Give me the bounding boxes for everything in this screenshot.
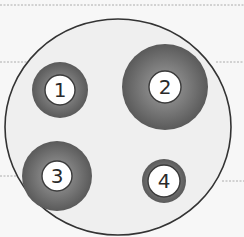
ring-number-label: 3 [51,164,64,188]
ring-1: 1 [32,62,88,118]
ring-4: 4 [142,159,186,203]
ring-number-label: 2 [159,75,172,99]
ring-number-label: 4 [158,169,171,193]
zone-diagram: 1234 [0,0,244,237]
ring-number-label: 1 [54,78,67,102]
ring-3: 3 [22,141,92,211]
ring-2: 2 [122,44,208,130]
